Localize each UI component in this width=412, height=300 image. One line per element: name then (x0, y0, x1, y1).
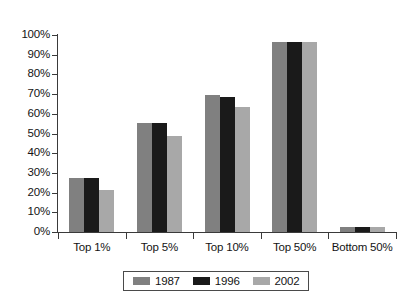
y-axis-tick-label: 10% (0, 206, 50, 218)
bar-1996-top-50 (287, 42, 302, 232)
bar-1987-top-1 (69, 178, 84, 232)
legend-entry-2002: 2002 (253, 275, 300, 287)
plot-area (58, 35, 396, 232)
x-axis-label-top-50: Top 50% (261, 241, 329, 253)
y-axis-tick-label: 70% (0, 88, 50, 100)
x-axis-tick (58, 233, 59, 239)
bar-2002-top-5 (167, 136, 182, 232)
bar-1996-top-5 (152, 123, 167, 232)
chart-legend: 198719962002 (123, 271, 309, 291)
x-axis-tick (328, 233, 329, 239)
bar-2002-top-1 (99, 190, 114, 232)
bar-1996-bottom-50 (355, 227, 370, 232)
legend-swatch-icon (253, 277, 270, 285)
bar-1987-top-5 (137, 123, 152, 232)
bar-chart-figure: 100%90%80%70%60%50%40%30%20%10%0% Top 1%… (0, 0, 412, 300)
bar-group (69, 35, 114, 232)
x-axis-tick (126, 233, 127, 239)
y-axis-tick-label: 60% (0, 108, 50, 120)
bar-1987-bottom-50 (340, 227, 355, 232)
legend-swatch-icon (133, 277, 150, 285)
x-axis-label-top-1: Top 1% (58, 241, 126, 253)
legend-label: 1987 (155, 275, 180, 287)
x-axis-tick (261, 233, 262, 239)
legend-entry-1996: 1996 (193, 275, 240, 287)
bar-group (137, 35, 182, 232)
x-axis-line (57, 232, 397, 233)
y-axis-tick-label: 100% (0, 29, 50, 41)
bar-2002-top-10 (235, 107, 250, 232)
bar-1996-top-1 (84, 178, 99, 232)
x-axis-label-bottom-50: Bottom 50% (328, 241, 396, 253)
bar-2002-bottom-50 (370, 227, 385, 232)
y-axis-tick-label: 40% (0, 147, 50, 159)
y-axis-tick-label: 30% (0, 167, 50, 179)
bar-group (272, 35, 317, 232)
bar-2002-top-50 (302, 42, 317, 232)
bar-group (340, 35, 385, 232)
legend-entry-1987: 1987 (133, 275, 180, 287)
legend-label: 2002 (275, 275, 300, 287)
x-axis-label-top-5: Top 5% (126, 241, 194, 253)
y-axis-tick-label: 20% (0, 187, 50, 199)
bar-1987-top-50 (272, 42, 287, 232)
x-axis-label-top-10: Top 10% (193, 241, 261, 253)
y-axis-tick-label: 90% (0, 49, 50, 61)
legend-label: 1996 (215, 275, 240, 287)
bar-1996-top-10 (220, 97, 235, 232)
x-axis-tick (193, 233, 194, 239)
y-axis-tick-label: 80% (0, 68, 50, 80)
x-axis-tick (396, 233, 397, 239)
y-axis-tick-labels: 100%90%80%70%60%50%40%30%20%10%0% (0, 0, 50, 300)
bar-1987-top-10 (205, 95, 220, 232)
y-axis-tick-label: 50% (0, 128, 50, 140)
legend-swatch-icon (193, 277, 210, 285)
bar-group (205, 35, 250, 232)
y-axis-tick-label: 0% (0, 226, 50, 238)
